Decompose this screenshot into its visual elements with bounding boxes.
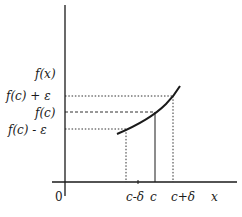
origin-label: 0 — [55, 190, 63, 204]
label-c-plus-delta: c+δ — [171, 190, 195, 204]
x-axis-label: x — [211, 190, 218, 204]
function-curve — [117, 86, 180, 134]
label-f-c-minus-epsilon: f(c) - ε — [7, 123, 47, 137]
y-axis-label: f(x) — [34, 67, 56, 81]
label-c-minus-delta: c-δ — [126, 190, 144, 204]
label-c: c — [150, 190, 157, 204]
label-f-c: f(c) — [34, 106, 56, 120]
epsilon-delta-diagram: f(x) f(c) + ε f(c) f(c) - ε 0 c-δ c c+δ … — [0, 0, 242, 217]
label-f-c-plus-epsilon: f(c) + ε — [5, 89, 51, 103]
